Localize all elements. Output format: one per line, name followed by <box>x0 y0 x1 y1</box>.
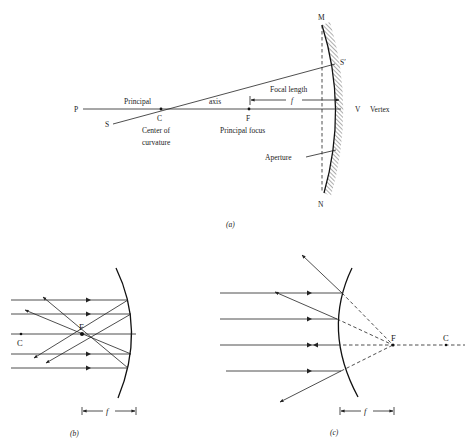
label-v: V <box>355 105 361 114</box>
reflected-rays-c <box>275 255 342 402</box>
label-c-b: C <box>17 338 23 348</box>
label-f-c: F <box>391 333 396 343</box>
label-aperture: Aperture <box>265 153 292 162</box>
caption-b: (b) <box>70 429 79 438</box>
label-n: N <box>318 200 324 209</box>
label-f-dim-b: f <box>106 406 110 416</box>
label-focal-length: Focal length <box>270 85 308 94</box>
label-f-b: F <box>79 322 84 332</box>
focus-point-b <box>80 332 84 336</box>
label-c: C <box>157 114 162 123</box>
label-f-dim-c: f <box>364 406 368 416</box>
radius-line-s-sprime <box>113 64 335 124</box>
figure-a: M N S′ V Vertex P S C F Principal axis F… <box>74 13 390 229</box>
concave-mirror-b <box>116 268 132 398</box>
label-s: S <box>105 120 109 129</box>
label-vertex: Vertex <box>370 105 390 114</box>
focal-length-dimension-b <box>82 407 136 415</box>
label-p: P <box>74 105 78 114</box>
figure-b: F C f (b) <box>11 268 136 438</box>
mirror-optics-diagram: M N S′ V Vertex P S C F Principal axis F… <box>0 0 467 447</box>
figure-c: F C f (c) <box>220 255 465 437</box>
focus-point-c <box>392 344 395 347</box>
center-point-c <box>445 344 448 347</box>
caption-a: (a) <box>226 220 235 229</box>
virtual-rays-c <box>337 293 465 371</box>
label-curvature: curvature <box>142 138 171 147</box>
label-principal: Principal <box>124 97 151 106</box>
principal-focus-point <box>248 108 251 111</box>
convex-mirror-c <box>338 268 358 397</box>
label-s-prime: S′ <box>340 58 346 67</box>
label-c-c: C <box>443 333 449 343</box>
label-focal-length-f: f <box>291 96 294 105</box>
label-principal-focus: Principal focus <box>220 126 265 135</box>
reflected-rays-b <box>25 297 131 368</box>
center-point-b <box>20 333 23 336</box>
label-m: M <box>318 13 325 22</box>
incident-rays-c <box>220 291 342 374</box>
caption-c: (c) <box>330 428 339 437</box>
center-of-curvature-point <box>160 108 163 111</box>
focal-length-dimension-c <box>340 407 394 415</box>
label-center-of: Center of <box>142 126 171 135</box>
label-axis: axis <box>209 97 221 106</box>
label-f-point: F <box>246 114 250 123</box>
